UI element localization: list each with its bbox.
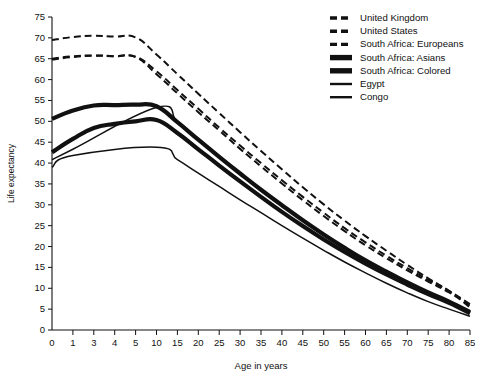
x-tick-label: 35 [256, 337, 267, 348]
x-tick-label: 20 [193, 337, 204, 348]
x-tick-label: 4 [112, 337, 117, 348]
y-tick-label: 15 [34, 261, 45, 272]
x-axis-title: Age in years [235, 360, 288, 371]
legend-label: Egypt [360, 78, 385, 89]
legend-label: United States [360, 25, 418, 36]
y-tick-label: 75 [34, 11, 45, 22]
y-tick-label: 60 [34, 74, 45, 85]
legend-label: South Africa: Colored [360, 65, 451, 76]
legend-label: United Kingdom [360, 12, 428, 23]
x-tick-label: 40 [277, 337, 288, 348]
y-tick-label: 20 [34, 241, 45, 252]
y-tick-label: 5 [40, 303, 45, 314]
x-tick-label: 0 [49, 337, 54, 348]
legend-label: South Africa: Asians [360, 52, 446, 63]
x-tick-label: 3 [91, 337, 96, 348]
y-tick-label: 55 [34, 94, 45, 105]
y-tick-label: 70 [34, 32, 45, 43]
y-tick-label: 0 [40, 324, 45, 335]
x-tick-label: 65 [381, 337, 392, 348]
y-tick-label: 45 [34, 136, 45, 147]
x-tick-label: 85 [465, 337, 476, 348]
y-tick-label: 10 [34, 282, 45, 293]
legend-label: South Africa: Europeans [360, 38, 464, 49]
y-axis-title: Life expectancy [6, 143, 16, 203]
y-tick-label: 25 [34, 220, 45, 231]
y-tick-label: 65 [34, 53, 45, 64]
life-expectancy-line-chart: 051015202530354045505560657075 013451015… [0, 0, 486, 374]
x-tick-label: 1 [70, 337, 75, 348]
y-tick-label: 50 [34, 115, 45, 126]
legend-label: Congo [360, 91, 388, 102]
y-tick-label: 35 [34, 178, 45, 189]
x-tick-label: 75 [423, 337, 434, 348]
x-tick-label: 5 [133, 337, 138, 348]
x-tick-label: 50 [318, 337, 329, 348]
x-tick-label: 15 [172, 337, 183, 348]
y-tick-label: 30 [34, 199, 45, 210]
x-tick-label: 80 [444, 337, 455, 348]
x-tick-label: 60 [360, 337, 371, 348]
x-tick-label: 25 [214, 337, 225, 348]
x-tick-label: 30 [235, 337, 246, 348]
y-tick-label: 40 [34, 157, 45, 168]
x-tick-label: 45 [298, 337, 309, 348]
x-tick-label: 70 [402, 337, 413, 348]
chart-container: 051015202530354045505560657075 013451015… [0, 0, 486, 374]
x-tick-label: 10 [151, 337, 162, 348]
x-tick-label: 55 [339, 337, 350, 348]
